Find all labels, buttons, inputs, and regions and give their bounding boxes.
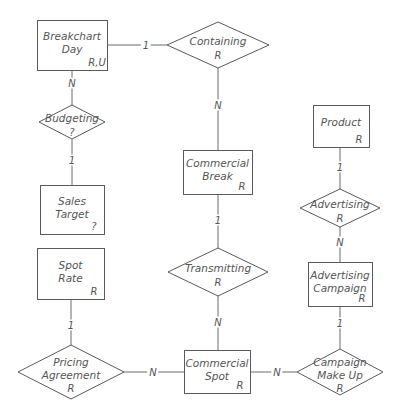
cardinality-label: 1 <box>213 215 223 226</box>
cardinality-label: 1 <box>335 318 345 329</box>
relationship-containing[interactable] <box>167 22 269 68</box>
cardinality-label: N <box>147 367 158 378</box>
entity-tag: R <box>91 286 98 297</box>
relationship-transmitting[interactable] <box>168 248 268 296</box>
entity-tag: R,U <box>88 57 105 68</box>
entity-tag: ? <box>91 221 96 232</box>
entity-tag: R <box>237 380 244 391</box>
cardinality-label: 1 <box>67 155 77 166</box>
diagram-canvas <box>0 0 403 419</box>
relationship-tag: R <box>68 383 75 394</box>
cardinality-label: N <box>212 317 223 328</box>
cardinality-label: 1 <box>335 162 345 173</box>
cardinality-label: N <box>334 237 345 248</box>
relationship-tag: ? <box>69 127 74 138</box>
entity-tag: R <box>239 181 246 192</box>
cardinality-label: N <box>66 78 77 89</box>
relationship-tag: R <box>215 277 222 288</box>
relationship-tag: R <box>337 213 344 224</box>
relationship-tag: R <box>337 383 344 394</box>
cardinality-label: 1 <box>141 40 151 51</box>
cardinality-label: N <box>212 100 223 111</box>
cardinality-label: N <box>271 367 282 378</box>
connection-lines <box>71 45 340 372</box>
relationship-tag: R <box>215 50 222 61</box>
entity-tag: R <box>356 134 363 145</box>
entity-tag: R <box>359 293 366 304</box>
cardinality-label: 1 <box>66 320 76 331</box>
